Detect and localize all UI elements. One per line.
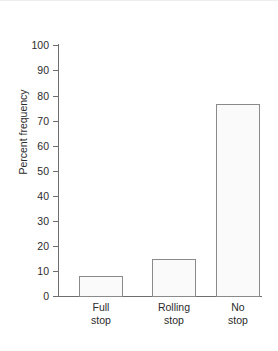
y-tick-label-wrap: 10 <box>16 266 49 277</box>
y-tick-label: 90 <box>16 65 49 76</box>
y-tick-mark <box>53 70 59 71</box>
y-tick-mark <box>53 146 59 147</box>
y-tick-label-wrap: 30 <box>16 216 49 227</box>
y-tick-mark <box>53 45 59 46</box>
y-tick-label-wrap: 100 <box>16 40 49 51</box>
chart-figure: Percent frequency 0 10 20 30 40 50 60 <box>0 0 278 351</box>
bar-rolling-stop <box>152 259 196 297</box>
y-tick-label: 100 <box>16 40 49 51</box>
y-tick-mark <box>53 96 59 97</box>
bar-full-stop <box>79 276 123 297</box>
x-label-rolling-stop: Rolling stop <box>144 301 204 326</box>
y-tick-mark <box>53 296 59 297</box>
y-tick-label-wrap: 60 <box>16 141 49 152</box>
y-tick-label-wrap: 50 <box>16 166 49 177</box>
y-tick-label: 0 <box>16 291 49 302</box>
y-tick-label-wrap: 0 <box>16 291 49 302</box>
plot-area: Percent frequency 0 10 20 30 40 50 60 <box>0 1 278 351</box>
y-tick-mark <box>53 121 59 122</box>
y-tick-label: 20 <box>16 241 49 252</box>
y-tick-mark <box>53 246 59 247</box>
y-tick-label-wrap: 40 <box>16 191 49 202</box>
y-tick-mark <box>53 221 59 222</box>
y-tick-mark <box>53 171 59 172</box>
y-tick-label: 60 <box>16 141 49 152</box>
y-tick-label-wrap: 20 <box>16 241 49 252</box>
y-tick-label: 10 <box>16 266 49 277</box>
y-tick-label: 80 <box>16 91 49 102</box>
x-label-full-stop: Full stop <box>71 301 131 326</box>
y-tick-label-wrap: 80 <box>16 91 49 102</box>
y-tick-mark <box>53 271 59 272</box>
y-tick-label: 70 <box>16 116 49 127</box>
y-tick-label: 40 <box>16 191 49 202</box>
y-tick-label: 50 <box>16 166 49 177</box>
y-tick-label-wrap: 90 <box>16 65 49 76</box>
y-axis-title: Percent frequency <box>17 52 29 212</box>
bar-no-stop <box>216 104 260 297</box>
x-label-no-stop: No stop <box>208 301 268 326</box>
y-tick-mark <box>53 196 59 197</box>
y-tick-label: 30 <box>16 216 49 227</box>
y-tick-label-wrap: 70 <box>16 116 49 127</box>
